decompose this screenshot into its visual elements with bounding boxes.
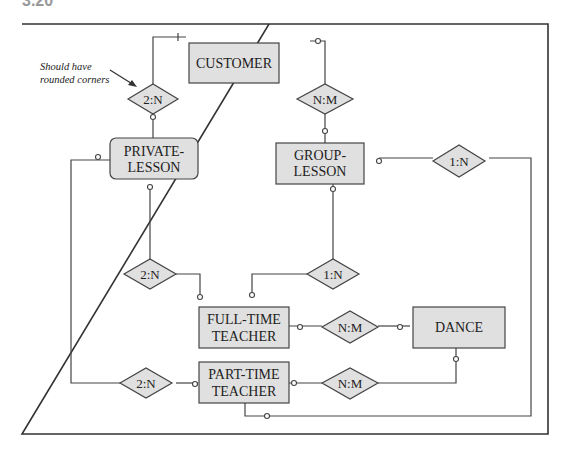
relationship-private-parttime[interactable]: 2:N	[120, 368, 172, 398]
annotation-note: Should have rounded corners	[40, 61, 137, 87]
svg-text:2:N: 2:N	[140, 267, 160, 282]
svg-text:2:N: 2:N	[143, 92, 163, 107]
entity-full-time-teacher-line2: TEACHER	[212, 329, 277, 344]
relationship-parttime-dance[interactable]: N:M	[322, 368, 378, 399]
entity-group-lesson[interactable]: GROUP- LESSON	[276, 143, 364, 184]
svg-text:2:N: 2:N	[136, 376, 156, 391]
entity-part-time-teacher-line1: PART-TIME	[208, 367, 279, 382]
entity-private-lesson-line1: PRIVATE-	[124, 144, 185, 159]
relationship-group-fulltime[interactable]: 1:N	[307, 259, 359, 289]
entity-group-lesson-line2: LESSON	[294, 164, 347, 179]
svg-text:1:N: 1:N	[449, 154, 469, 169]
annotation-line-2: rounded corners	[40, 74, 109, 85]
entity-customer[interactable]: CUSTOMER	[189, 43, 279, 83]
entity-part-time-teacher-line2: TEACHER	[212, 384, 277, 399]
svg-text:N:M: N:M	[313, 92, 338, 107]
entity-dance-label: DANCE	[435, 320, 483, 335]
relationship-customer-group[interactable]: N:M	[297, 84, 353, 114]
entity-full-time-teacher-line1: FULL-TIME	[207, 312, 281, 327]
relationship-customer-private[interactable]: 2:N	[128, 84, 178, 114]
er-diagram: Should have rounded corners CUSTOMER PRI…	[0, 0, 570, 457]
entity-private-lesson[interactable]: PRIVATE- LESSON	[110, 138, 198, 179]
annotation-line-1: Should have	[40, 61, 92, 72]
entity-private-lesson-line2: LESSON	[128, 160, 181, 175]
svg-text:N:M: N:M	[338, 320, 363, 335]
relationship-group-parttime[interactable]: 1:N	[433, 145, 485, 177]
entity-full-time-teacher[interactable]: FULL-TIME TEACHER	[199, 307, 289, 348]
entity-customer-label: CUSTOMER	[196, 56, 273, 71]
entity-part-time-teacher[interactable]: PART-TIME TEACHER	[199, 362, 289, 403]
entity-dance[interactable]: DANCE	[413, 307, 505, 348]
svg-text:1:N: 1:N	[323, 267, 343, 282]
relationship-private-fulltime[interactable]: 2:N	[124, 259, 176, 289]
svg-text:N:M: N:M	[338, 376, 363, 391]
entity-group-lesson-line1: GROUP-	[294, 148, 346, 163]
connector-lines	[71, 33, 531, 416]
relationship-fulltime-dance[interactable]: N:M	[322, 311, 378, 343]
